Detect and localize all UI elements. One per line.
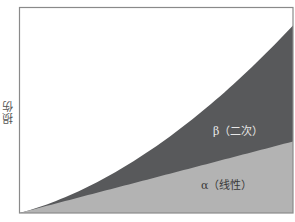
y-axis-label: 损伤 <box>2 100 16 124</box>
series-label-alpha: α（线性） <box>201 176 252 192</box>
series-label-beta: β（二次） <box>213 122 263 138</box>
